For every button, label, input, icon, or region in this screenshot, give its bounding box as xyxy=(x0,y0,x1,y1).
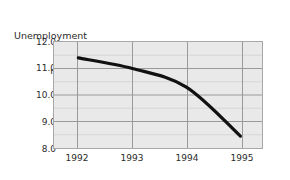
data-series-line xyxy=(78,58,240,136)
x-axis-tick-1993: 1993 xyxy=(112,153,152,163)
x-axis-tick-1995: 1995 xyxy=(222,153,262,163)
unemployment-rate-line-chart: Unemployment rate 12.0 11.0 10.0 9.0 8.0… xyxy=(0,0,290,180)
y-axis-tick-8: 8.0 xyxy=(22,145,56,154)
y-axis-tick-10: 10.0 xyxy=(22,91,56,100)
x-axis-tick-1994: 1994 xyxy=(167,153,207,163)
x-axis-tick-1992: 1992 xyxy=(57,153,97,163)
y-axis-tick-12: 12.0 xyxy=(22,38,56,47)
y-axis-tick-9: 9.0 xyxy=(22,118,56,127)
plot-area xyxy=(53,41,263,149)
plot-canvas xyxy=(54,42,262,148)
y-axis-tick-11: 11.0 xyxy=(22,64,56,73)
